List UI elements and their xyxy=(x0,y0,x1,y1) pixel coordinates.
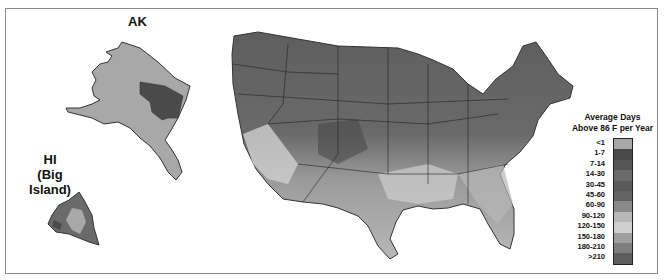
legend-label: >210 xyxy=(575,252,605,262)
legend-swatch xyxy=(614,139,632,149)
legend-label: 180-210 xyxy=(575,242,605,252)
contiguous-us-map xyxy=(228,24,588,274)
legend-label: 30-45 xyxy=(575,180,605,190)
legend-label: <1 xyxy=(575,138,605,148)
legend-label: 45-60 xyxy=(575,190,605,200)
legend-label: 14-30 xyxy=(575,169,605,179)
legend-color-bar xyxy=(613,138,633,265)
legend-label: 150-180 xyxy=(575,232,605,242)
legend-swatch xyxy=(614,170,632,180)
legend-label: 1-7 xyxy=(575,148,605,158)
legend-swatch xyxy=(614,201,632,211)
legend-label: 120-150 xyxy=(575,221,605,231)
alaska-map xyxy=(0,0,200,190)
legend-label: 90-120 xyxy=(575,211,605,221)
legend-swatch xyxy=(614,149,632,159)
legend-swatch xyxy=(614,212,632,222)
legend-title-line2: Above 86 F per Year xyxy=(560,123,665,134)
legend-swatch xyxy=(614,243,632,253)
legend-title-line1: Average Days xyxy=(560,112,665,123)
legend-swatch xyxy=(614,222,632,232)
legend-swatch xyxy=(614,253,632,263)
legend-swatch xyxy=(614,233,632,243)
legend-labels: <1 1-7 7-14 14-30 30-45 45-60 60-90 90-1… xyxy=(575,138,605,263)
hawaii-map xyxy=(44,190,104,250)
legend-swatch xyxy=(614,191,632,201)
legend-label: 7-14 xyxy=(575,159,605,169)
legend-swatch xyxy=(614,160,632,170)
legend-swatch xyxy=(614,181,632,191)
legend-label: 60-90 xyxy=(575,200,605,210)
legend-title: Average Days Above 86 F per Year xyxy=(560,112,665,134)
